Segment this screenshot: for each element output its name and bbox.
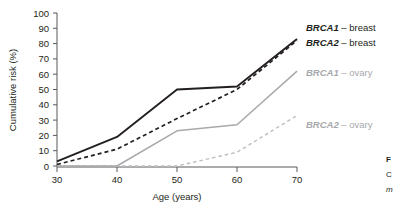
y-tick-label: 50 bbox=[38, 84, 49, 95]
x-tick-label: 40 bbox=[112, 174, 123, 185]
y-axis-tick-labels: 100 90 80 70 60 50 40 30 20 10 0 bbox=[33, 8, 49, 172]
y-tick-label: 90 bbox=[38, 23, 49, 34]
legend-suffix: – breast bbox=[339, 22, 376, 33]
y-tick-label: 60 bbox=[38, 69, 49, 80]
caption-line: C bbox=[386, 170, 392, 179]
legend-gene-name: BRCA1 bbox=[306, 22, 339, 33]
legend-item-brca1-ovary: BRCA1 – ovary bbox=[306, 67, 373, 78]
caption-line: F bbox=[386, 155, 391, 164]
legend-item-brca2-breast: BRCA2 – breast bbox=[306, 37, 376, 48]
legend-gene-name: BRCA2 bbox=[306, 119, 339, 130]
y-axis-title: Cumulative risk (%) bbox=[7, 49, 18, 131]
y-tick-label: 0 bbox=[44, 161, 49, 172]
y-tick-label: 30 bbox=[38, 115, 49, 126]
x-tick-label: 70 bbox=[292, 174, 303, 185]
y-tick-label: 20 bbox=[38, 130, 49, 141]
legend-suffix: – ovary bbox=[339, 119, 373, 130]
y-tick-label: 80 bbox=[38, 38, 49, 49]
cumulative-risk-line-chart: 100 90 80 70 60 50 40 30 20 10 0 30 40 5… bbox=[0, 0, 400, 216]
x-axis-tick-labels: 30 40 50 60 70 bbox=[52, 174, 303, 185]
figure-caption-truncated: F C m bbox=[386, 155, 393, 194]
x-tick-label: 60 bbox=[232, 174, 243, 185]
y-tick-label: 100 bbox=[33, 8, 49, 19]
x-axis-title: Age (years) bbox=[152, 191, 201, 202]
legend-item-brca2-ovary: BRCA2 – ovary bbox=[306, 119, 373, 130]
x-tick-label: 50 bbox=[172, 174, 183, 185]
y-tick-label: 40 bbox=[38, 99, 49, 110]
x-tick-label: 30 bbox=[52, 174, 63, 185]
y-tick-label: 70 bbox=[38, 53, 49, 64]
legend-gene-name: BRCA1 bbox=[306, 67, 339, 78]
figure-container: 100 90 80 70 60 50 40 30 20 10 0 30 40 5… bbox=[0, 0, 400, 216]
legend-gene-name: BRCA2 bbox=[306, 37, 339, 48]
caption-line: m bbox=[386, 185, 393, 194]
series-line-brca1-breast bbox=[57, 39, 297, 161]
legend-item-brca1-breast: BRCA1 – breast bbox=[306, 22, 376, 33]
y-axis-ticks bbox=[53, 13, 57, 166]
series-line-brca2-ovary bbox=[57, 116, 297, 166]
legend-suffix: – ovary bbox=[339, 67, 373, 78]
x-axis-ticks bbox=[57, 167, 297, 172]
legend-suffix: – breast bbox=[339, 37, 376, 48]
y-tick-label: 10 bbox=[38, 145, 49, 156]
